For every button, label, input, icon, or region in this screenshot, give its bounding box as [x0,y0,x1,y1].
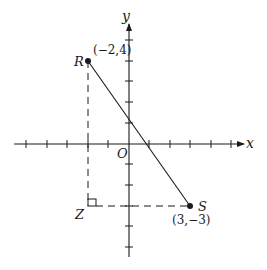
origin-label: O [117,146,128,161]
point-s [187,203,193,209]
point-z-label: Z [74,207,85,222]
point-r-label: R [73,54,84,69]
diagram-canvas: y x O R (−2,4) S (3,−3) Z [0,0,267,270]
x-axis-label: x [246,135,254,151]
point-s-coords: (3,−3) [172,213,211,227]
right-angle-marker [88,199,96,206]
point-r-coords: (−2,4) [93,43,132,57]
point-s-label: S [198,199,207,214]
segment-rs [88,61,190,206]
coordinate-plane-diagram: y x O R (−2,4) S (3,−3) Z [0,0,267,270]
y-axis-label: y [121,8,131,24]
point-r [85,58,91,64]
